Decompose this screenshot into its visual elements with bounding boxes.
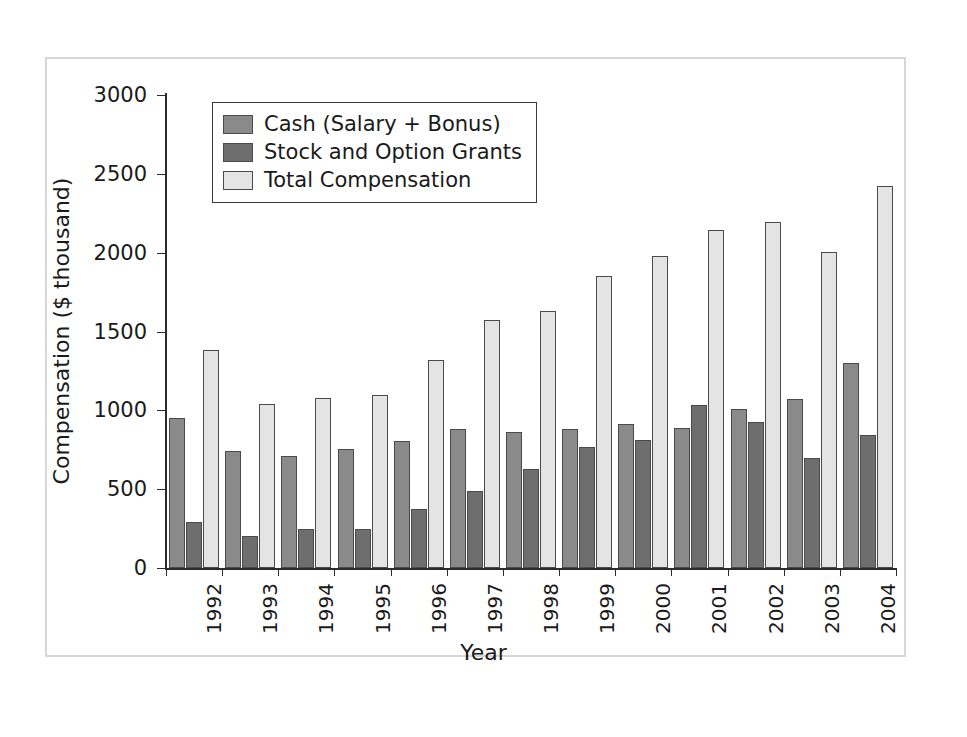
y-axis-tick-label: 3000	[94, 85, 147, 106]
x-axis-tick-label: 2000	[653, 583, 673, 634]
bar-cash-1997	[450, 429, 466, 568]
bar-cash-1999	[562, 429, 578, 568]
legend-item-label: Stock and Option Grants	[264, 142, 522, 163]
x-axis-tick-label: 1998	[541, 583, 561, 634]
bar-stock-1999	[579, 447, 595, 568]
y-axis-tick-label: 0	[134, 558, 147, 579]
bar-stock-1998	[523, 469, 539, 568]
x-axis-tick	[278, 568, 279, 576]
y-axis-tick: 2500	[157, 174, 166, 175]
legend-item: Stock and Option Grants	[223, 138, 522, 166]
bar-stock-2001	[691, 405, 707, 568]
x-axis-tick	[896, 568, 897, 576]
x-axis-tick	[728, 568, 729, 576]
y-axis-tick-label: 1000	[94, 400, 147, 421]
x-axis-tick	[166, 568, 167, 576]
legend-item: Total Compensation	[223, 166, 522, 194]
bar-cash-1992	[169, 418, 185, 568]
x-axis-tick	[447, 568, 448, 576]
bar-total-1992	[203, 350, 219, 568]
bar-cash-2001	[674, 428, 690, 568]
bar-cash-2003	[787, 399, 803, 568]
y-axis-label: Compensation ($ thousand)	[51, 178, 73, 485]
x-axis-tick-label: 1992	[204, 583, 224, 634]
y-axis-tick: 0	[157, 568, 166, 569]
bar-stock-1997	[467, 491, 483, 568]
y-axis-tick-label: 1500	[94, 321, 147, 342]
bar-total-1996	[428, 360, 444, 568]
x-axis-tick	[334, 568, 335, 576]
bar-stock-1992	[186, 522, 202, 569]
bar-cash-1998	[506, 432, 522, 568]
x-axis-tick	[391, 568, 392, 576]
bar-total-1999	[596, 276, 612, 568]
legend-swatch-icon	[223, 171, 253, 190]
x-axis-tick	[222, 568, 223, 576]
legend-item-label: Cash (Salary + Bonus)	[264, 114, 501, 135]
y-axis-tick-label: 2000	[94, 242, 147, 263]
y-axis-tick-label: 500	[107, 479, 147, 500]
x-axis-tick	[671, 568, 672, 576]
bar-cash-2000	[618, 424, 634, 568]
bar-total-2001	[708, 230, 724, 568]
bar-total-2003	[821, 252, 837, 568]
bar-total-2004	[877, 186, 893, 568]
x-axis-tick-label: 1994	[316, 583, 336, 634]
x-axis-tick-label: 1993	[260, 583, 280, 634]
bar-cash-1995	[338, 449, 354, 568]
y-axis-tick: 1500	[157, 332, 166, 333]
bar-stock-2000	[635, 440, 651, 568]
x-axis-tick	[559, 568, 560, 576]
y-axis-tick-label: 2500	[94, 163, 147, 184]
y-axis-tick: 3000	[157, 95, 166, 96]
bar-stock-1994	[298, 529, 314, 568]
y-axis-tick: 1000	[157, 410, 166, 411]
x-axis-tick	[615, 568, 616, 576]
bar-total-1993	[259, 404, 275, 568]
legend-item-label: Total Compensation	[264, 170, 471, 191]
legend-swatch-icon	[223, 115, 253, 134]
x-axis-tick-label: 1995	[373, 583, 393, 634]
bar-stock-2002	[748, 422, 764, 568]
bar-cash-1994	[281, 456, 297, 568]
chart-legend: Cash (Salary + Bonus)Stock and Option Gr…	[212, 102, 537, 203]
bar-cash-1996	[394, 441, 410, 568]
bar-stock-2003	[804, 458, 820, 568]
x-axis-tick-label: 2004	[878, 583, 898, 634]
bar-cash-2002	[731, 409, 747, 568]
x-axis-tick-label: 1999	[597, 583, 617, 634]
bar-stock-1996	[411, 509, 427, 568]
x-axis-tick	[784, 568, 785, 576]
bar-cash-1993	[225, 451, 241, 568]
x-axis-tick-label: 2002	[766, 583, 786, 634]
bar-stock-2004	[860, 435, 876, 568]
bar-total-1997	[484, 320, 500, 568]
x-axis-tick	[840, 568, 841, 576]
bar-total-2000	[652, 256, 668, 568]
x-axis-tick-label: 1997	[485, 583, 505, 634]
figure-page: Compensation ($ thousand) 05001000150020…	[0, 0, 967, 737]
y-axis-tick: 500	[157, 489, 166, 490]
legend-swatch-icon	[223, 143, 253, 162]
x-axis-label: Year	[0, 640, 967, 665]
legend-item: Cash (Salary + Bonus)	[223, 110, 522, 138]
x-axis-tick-label: 2003	[822, 583, 842, 634]
bar-stock-1995	[355, 529, 371, 568]
x-axis-line	[165, 568, 897, 570]
bar-stock-1993	[242, 536, 258, 568]
bar-total-1994	[315, 398, 331, 568]
x-axis-tick	[503, 568, 504, 576]
x-axis-tick-label: 1996	[429, 583, 449, 634]
x-axis-tick-label: 2001	[709, 583, 729, 634]
bar-cash-2004	[843, 363, 859, 568]
bar-total-2002	[765, 222, 781, 568]
y-axis-tick: 2000	[157, 253, 166, 254]
bar-total-1998	[540, 311, 556, 568]
bar-total-1995	[372, 395, 388, 568]
